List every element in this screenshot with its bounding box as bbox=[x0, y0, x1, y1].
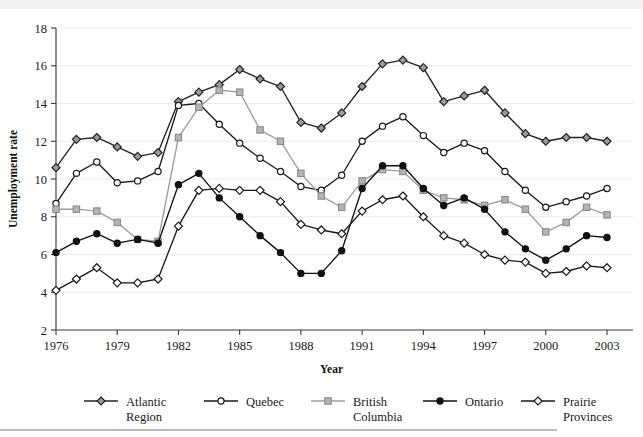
data-point bbox=[94, 159, 100, 165]
legend-item-ontario[interactable]: Ontario bbox=[423, 395, 503, 409]
data-point bbox=[73, 238, 79, 244]
x-tick-label: 2003 bbox=[595, 339, 620, 353]
legend-marker-icon bbox=[437, 398, 443, 404]
data-point bbox=[216, 121, 222, 127]
legend-label: Prairie bbox=[563, 395, 597, 409]
data-point bbox=[257, 233, 263, 239]
data-point bbox=[460, 239, 468, 247]
data-point bbox=[542, 137, 550, 145]
data-point bbox=[379, 196, 387, 204]
unemployment-line-chart: 2468101214161819761979198219851988199119… bbox=[0, 9, 643, 437]
data-point bbox=[604, 212, 610, 218]
data-point bbox=[277, 250, 283, 256]
data-point bbox=[135, 178, 141, 184]
data-point bbox=[481, 148, 487, 154]
data-point bbox=[339, 204, 345, 210]
data-point bbox=[481, 251, 489, 259]
data-point bbox=[113, 143, 121, 151]
legend-label-line2: Columbia bbox=[353, 410, 403, 424]
data-point bbox=[339, 248, 345, 254]
x-axis-title: Year bbox=[320, 363, 343, 375]
chart-container: 2468101214161819761979198219851988199119… bbox=[0, 9, 643, 437]
data-point bbox=[94, 231, 100, 237]
data-point bbox=[461, 195, 467, 201]
y-tick-label: 6 bbox=[41, 248, 47, 262]
y-tick-label: 4 bbox=[41, 286, 48, 300]
x-tick-label: 1994 bbox=[411, 339, 437, 353]
data-point bbox=[52, 286, 60, 294]
data-point bbox=[441, 195, 447, 201]
data-point bbox=[318, 193, 324, 199]
x-tick-label: 1979 bbox=[105, 339, 130, 353]
legend-item-quebec[interactable]: Quebec bbox=[204, 395, 285, 409]
data-point bbox=[603, 264, 611, 272]
x-tick-label: 1976 bbox=[44, 339, 69, 353]
series-british-columbia bbox=[53, 87, 610, 244]
y-tick-label: 14 bbox=[35, 97, 48, 111]
data-point bbox=[420, 132, 426, 138]
data-point bbox=[216, 195, 222, 201]
data-point bbox=[195, 88, 203, 96]
data-point bbox=[134, 279, 142, 287]
data-point bbox=[379, 163, 385, 169]
data-point bbox=[196, 104, 202, 110]
data-point bbox=[359, 185, 365, 191]
data-point bbox=[277, 138, 283, 144]
y-tick-label: 18 bbox=[35, 22, 48, 36]
y-tick-label: 10 bbox=[35, 173, 48, 187]
data-point bbox=[604, 185, 610, 191]
legend: AtlanticRegionQuebecBritishColumbiaOntar… bbox=[84, 395, 612, 425]
axes: 2468101214161819761979198219851988199119… bbox=[35, 22, 634, 354]
top-cut-off-strip bbox=[0, 0, 643, 9]
y-tick-label: 12 bbox=[35, 135, 48, 149]
data-point bbox=[53, 206, 59, 212]
y-tick-label: 2 bbox=[41, 324, 47, 338]
data-point bbox=[93, 133, 101, 141]
y-axis-title: Unemployment rate bbox=[7, 130, 20, 228]
legend-marker-icon bbox=[97, 397, 105, 405]
legend-item-prairie-provinces[interactable]: PrairieProvinces bbox=[521, 395, 612, 425]
data-point bbox=[53, 250, 59, 256]
data-point bbox=[583, 133, 591, 141]
x-tick-label: 1988 bbox=[288, 339, 313, 353]
data-point bbox=[257, 155, 263, 161]
data-point bbox=[501, 256, 509, 264]
data-point bbox=[603, 137, 611, 145]
data-point bbox=[196, 170, 202, 176]
data-point bbox=[543, 257, 549, 263]
data-point bbox=[563, 199, 569, 205]
data-point bbox=[542, 269, 550, 277]
data-point bbox=[135, 236, 141, 242]
legend-marker-icon bbox=[325, 398, 331, 404]
data-point bbox=[583, 233, 589, 239]
data-point bbox=[298, 270, 304, 276]
data-point bbox=[522, 206, 528, 212]
data-point bbox=[522, 246, 528, 252]
data-point bbox=[583, 204, 589, 210]
series-line bbox=[56, 90, 607, 241]
data-point bbox=[317, 226, 325, 234]
legend-item-atlantic-region[interactable]: AtlanticRegion bbox=[84, 395, 167, 425]
data-point bbox=[359, 138, 365, 144]
data-point bbox=[502, 197, 508, 203]
legend-label-line2: Provinces bbox=[563, 410, 612, 424]
legend-marker-icon bbox=[218, 398, 224, 404]
data-point bbox=[420, 185, 426, 191]
x-tick-label: 1997 bbox=[472, 339, 497, 353]
data-point bbox=[237, 214, 243, 220]
legend-item-british-columbia[interactable]: BritishColumbia bbox=[311, 395, 403, 425]
data-point bbox=[256, 75, 264, 83]
data-point bbox=[236, 89, 242, 95]
x-tick-label: 1991 bbox=[350, 339, 375, 353]
data-point bbox=[216, 87, 222, 93]
data-point bbox=[277, 168, 283, 174]
data-point bbox=[114, 219, 120, 225]
data-point bbox=[94, 208, 100, 214]
data-point bbox=[400, 114, 406, 120]
x-tick-label: 1985 bbox=[227, 339, 252, 353]
data-point bbox=[237, 140, 243, 146]
data-point bbox=[399, 56, 407, 64]
data-point bbox=[215, 184, 223, 192]
data-point bbox=[297, 118, 305, 126]
data-point bbox=[154, 275, 162, 283]
